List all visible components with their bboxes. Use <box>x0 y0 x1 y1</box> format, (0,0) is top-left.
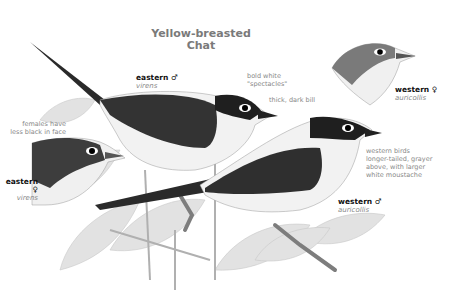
label-scientific: auricollis <box>338 206 382 214</box>
title-line-2: Chat <box>146 40 256 52</box>
label-eastern-female: eastern ♀ virens <box>0 178 38 202</box>
note-females: females have less black in face <box>6 120 66 136</box>
note-spectacles: bold white "spectacles" <box>247 72 287 88</box>
label-western-male: western ♂ auricollis <box>338 198 382 214</box>
plate-title: Yellow-breasted Chat <box>146 28 256 52</box>
label-eastern-male: eastern ♂ virens <box>136 74 178 90</box>
note-line: less black in face <box>6 128 66 136</box>
label-scientific: virens <box>136 82 178 90</box>
note-line: longer-tailed, grayer <box>366 155 432 163</box>
note-line: white moustache <box>366 171 432 179</box>
label-scientific: virens <box>0 194 38 202</box>
note-western: western birds longer-tailed, grayer abov… <box>366 147 432 179</box>
bird-eastern-female <box>32 138 125 205</box>
note-line: thick, dark bill <box>269 96 315 104</box>
label-name: western ♀ <box>395 86 437 94</box>
note-line: females have <box>6 120 66 128</box>
note-line: "spectacles" <box>247 80 287 88</box>
label-name: eastern ♀ <box>0 178 38 194</box>
note-line: above, with larger <box>366 163 432 171</box>
note-line: western birds <box>366 147 432 155</box>
label-name: western ♂ <box>338 198 382 206</box>
label-western-female: western ♀ auricollis <box>395 86 437 102</box>
label-name: eastern ♂ <box>136 74 178 82</box>
field-guide-plate: Yellow-breasted Chat eastern ♂ virens ea… <box>0 0 458 297</box>
label-scientific: auricollis <box>395 94 437 102</box>
note-bill: thick, dark bill <box>269 96 315 104</box>
note-line: bold white <box>247 72 287 80</box>
